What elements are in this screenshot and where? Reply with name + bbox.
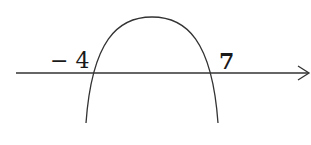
parabola-curve: [86, 17, 218, 123]
root-label-left: − 4: [50, 50, 89, 72]
diagram-canvas: [0, 0, 311, 145]
root-label-right: 7: [219, 50, 234, 72]
